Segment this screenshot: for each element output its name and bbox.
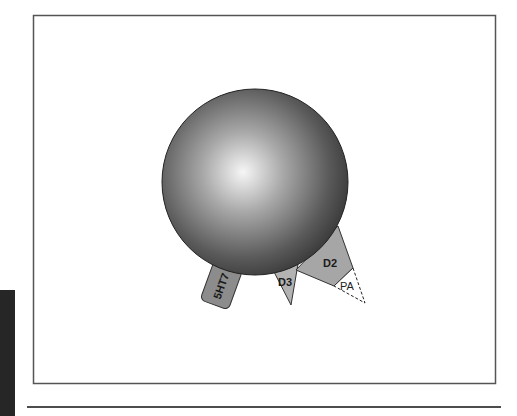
side-block <box>0 290 15 416</box>
cell-sphere <box>162 89 348 275</box>
receptor-d3-label: D3 <box>278 276 292 288</box>
diagram-canvas: 5HT7 D3 D2 PA <box>0 0 517 416</box>
receptor-d2-label: D2 <box>323 257 337 269</box>
region-pa-label: PA <box>340 280 355 292</box>
